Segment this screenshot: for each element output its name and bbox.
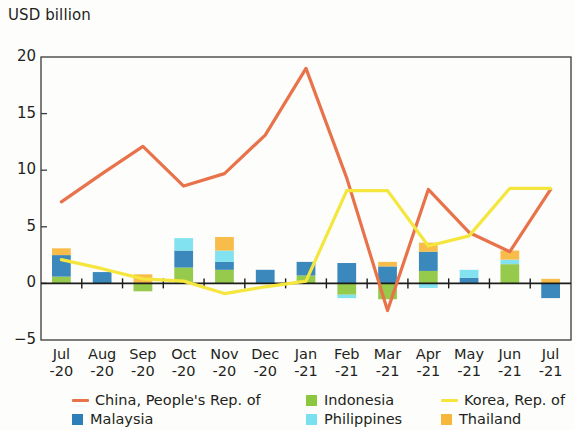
bar-stack <box>256 270 275 284</box>
x-axis-tick-label: Jul -20 <box>41 346 82 380</box>
legend-item-label: Malaysia <box>90 411 153 427</box>
x-axis-tick-label: Oct -20 <box>163 346 204 380</box>
bar-segment <box>174 238 193 250</box>
legend-line-icon <box>72 399 89 402</box>
bar-segment <box>52 248 71 255</box>
bar-stack <box>52 248 71 283</box>
chart-figure: USD billion 20151050−5 Jul -20Aug -20Sep… <box>0 0 575 430</box>
bar-stack <box>174 238 193 283</box>
legend-item[interactable]: Korea, Rep. of <box>441 392 565 408</box>
bar-segment <box>378 266 397 283</box>
bar-segment <box>134 283 153 291</box>
legend-item-label: Indonesia <box>324 392 394 408</box>
x-axis-tick-label: Jul -21 <box>530 346 571 380</box>
bar-segment <box>419 271 438 283</box>
x-axis-tick-label: Dec -20 <box>245 346 286 380</box>
bar-segment <box>337 295 356 298</box>
bar-segment <box>215 237 234 251</box>
bar-stack <box>460 270 479 284</box>
x-axis-tick-label: Nov -20 <box>204 346 245 380</box>
bar-segment <box>460 278 479 284</box>
bar-segment <box>93 272 112 283</box>
bar-stack <box>215 237 234 283</box>
bar-segment <box>500 260 519 265</box>
legend-item-label: Korea, Rep. of <box>464 392 565 408</box>
bars-group <box>52 237 560 299</box>
legend-box-icon <box>306 395 317 406</box>
x-axis-tick-label: Feb -21 <box>326 346 367 380</box>
bar-stack <box>337 263 356 298</box>
bar-segment <box>378 262 397 267</box>
bar-segment <box>52 277 71 284</box>
x-axis-tick-label: Jun -21 <box>489 346 530 380</box>
legend-item[interactable]: Indonesia <box>306 392 394 408</box>
legend-item[interactable]: Thailand <box>441 411 521 427</box>
x-axis-tick-label: Jan -21 <box>286 346 327 380</box>
bar-segment <box>541 283 560 298</box>
bar-segment <box>215 270 234 284</box>
legend-box-icon <box>72 414 83 425</box>
legend-line-icon <box>441 399 458 402</box>
legend-item-label: China, People's Rep. of <box>95 392 261 408</box>
legend-item-label: Philippines <box>324 411 402 427</box>
legend-item[interactable]: Philippines <box>306 411 402 427</box>
bar-segment <box>419 252 438 271</box>
x-axis-tick-label: Aug -20 <box>82 346 123 380</box>
bar-segment <box>215 262 234 270</box>
plot-frame <box>41 57 571 340</box>
bar-segment <box>215 251 234 262</box>
legend-item[interactable]: Malaysia <box>72 411 153 427</box>
bar-stack <box>93 272 112 283</box>
bar-segment <box>460 270 479 278</box>
bar-stack <box>419 243 438 288</box>
bar-stack <box>500 251 519 284</box>
bar-segment <box>500 264 519 283</box>
legend-box-icon <box>441 414 452 425</box>
x-axis-tick-label: Apr -21 <box>408 346 449 380</box>
x-axis-tick-label: Sep -20 <box>123 346 164 380</box>
bar-segment <box>337 263 356 283</box>
bar-segment <box>174 251 193 268</box>
legend-item-label: Thailand <box>459 411 521 427</box>
bar-stack <box>541 279 560 298</box>
bar-segment <box>337 283 356 294</box>
bar-segment <box>256 270 275 284</box>
legend-box-icon <box>306 414 317 425</box>
x-axis-tick-label: Mar -21 <box>367 346 408 380</box>
legend-item[interactable]: China, People's Rep. of <box>72 392 261 408</box>
chart-legend: China, People's Rep. ofIndonesiaKorea, R… <box>0 392 575 430</box>
x-axis-tick-label: May -21 <box>449 346 490 380</box>
